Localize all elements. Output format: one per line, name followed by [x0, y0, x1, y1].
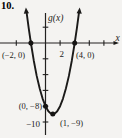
x-tick-label-2: 2 — [60, 49, 65, 59]
point-label-neg2-0: (−2, 0) — [2, 50, 25, 60]
point-label-1-neg9: (1, −9) — [60, 118, 83, 128]
curve-right-arrowhead-icon — [77, 8, 82, 14]
problem-number: 10. — [1, 0, 15, 11]
textbook-graph-figure: 10. g(x) x 2 −10 (−2, 0) (4, 0) (0, −8) … — [0, 0, 122, 138]
data-point-dot — [50, 112, 55, 117]
point-label-4-0: (4, 0) — [76, 50, 95, 60]
figure-canvas: 10. g(x) x 2 −10 (−2, 0) (4, 0) (0, −8) … — [0, 0, 122, 138]
y-axis-label: g(x) — [48, 13, 63, 24]
data-point-dot — [28, 41, 33, 46]
point-label-0-neg8: (0, −8) — [19, 101, 42, 111]
x-axis-label: x — [115, 33, 121, 43]
y-tick-label-neg10: −10 — [26, 119, 41, 129]
data-point-dot — [43, 104, 48, 109]
data-point-dot — [72, 41, 77, 46]
parabola-curve — [27, 12, 80, 114]
curve-left-arrowhead-icon — [24, 8, 29, 14]
